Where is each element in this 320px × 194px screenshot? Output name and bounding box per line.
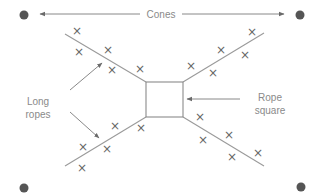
player-marker-x-icon: × bbox=[198, 133, 208, 147]
player-marker-x-icon: × bbox=[78, 140, 88, 154]
player-marker-x-icon: × bbox=[227, 150, 237, 164]
player-marker-x-icon: × bbox=[77, 161, 87, 175]
arrow-to-lower-rope bbox=[70, 112, 99, 138]
player-marker-x-icon: × bbox=[186, 59, 196, 73]
field-setup-diagram: Cones ×××××××××××××××××××× Long ropes Ro… bbox=[0, 0, 320, 194]
cones-label: Cones bbox=[147, 9, 176, 20]
player-marker-x-icon: × bbox=[107, 63, 117, 77]
player-marker-x-icon: × bbox=[136, 121, 146, 135]
player-marker-x-icon: × bbox=[247, 25, 257, 39]
cone-icon bbox=[296, 11, 305, 20]
player-marker-x-icon: × bbox=[74, 45, 84, 59]
player-marker-x-icon: × bbox=[208, 66, 218, 80]
long-ropes-callout: Long ropes bbox=[25, 63, 102, 138]
player-marker-x-icon: × bbox=[216, 43, 226, 57]
player-marker-x-icon: × bbox=[240, 48, 250, 62]
cone-icon bbox=[297, 183, 306, 192]
long-ropes-label-line2: ropes bbox=[25, 109, 50, 120]
player-marker-x-icon: × bbox=[195, 110, 205, 124]
player-marker-x-icon: × bbox=[103, 43, 113, 57]
long-ropes-label-line1: Long bbox=[27, 96, 49, 107]
rope-square-label-line2: square bbox=[255, 105, 286, 116]
cone-icon bbox=[20, 184, 29, 193]
player-marker-x-icon: × bbox=[72, 24, 82, 38]
player-marker-x-icon: × bbox=[110, 119, 120, 133]
player-marker-x-icon: × bbox=[253, 146, 263, 160]
long-rope bbox=[183, 33, 264, 82]
player-marker-x-icon: × bbox=[135, 62, 145, 76]
rope-square bbox=[146, 82, 183, 117]
player-marker-x-icon: × bbox=[224, 128, 234, 142]
arrow-to-upper-rope bbox=[70, 63, 102, 90]
player-marker-x-icon: × bbox=[102, 142, 112, 156]
cone-icon bbox=[20, 11, 29, 20]
cones-callout: Cones bbox=[40, 9, 284, 20]
rope-square-label-line1: Rope bbox=[258, 92, 282, 103]
